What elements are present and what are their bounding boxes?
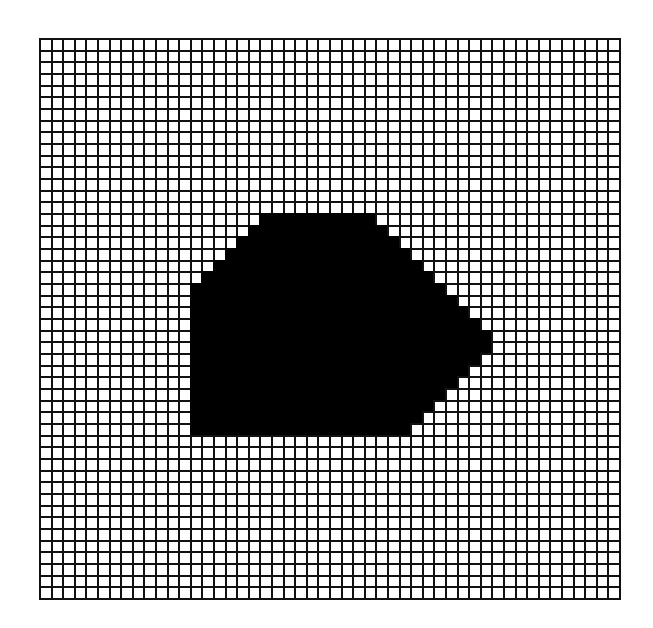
- grid-cell: [433, 96, 445, 108]
- grid-cell: [364, 435, 376, 447]
- filled-cell: [375, 306, 387, 318]
- grid-cell: [97, 435, 109, 447]
- grid-cell: [445, 446, 457, 458]
- filled-cell: [259, 225, 271, 237]
- grid-cell: [584, 38, 596, 50]
- grid-cell: [341, 586, 353, 598]
- filled-cell: [283, 330, 295, 342]
- filled-cell: [190, 318, 202, 330]
- grid-cell: [561, 143, 573, 155]
- filled-cell: [271, 295, 283, 307]
- grid-cell: [201, 236, 213, 248]
- grid-cell: [155, 225, 167, 237]
- grid-cell: [480, 505, 492, 517]
- grid-cell: [445, 470, 457, 482]
- grid-cell: [573, 318, 585, 330]
- grid-cell: [85, 376, 97, 388]
- grid-cell: [74, 85, 86, 97]
- grid-cell: [538, 563, 550, 575]
- grid-cell: [399, 73, 411, 85]
- grid-cell: [85, 120, 97, 132]
- filled-cell: [236, 283, 248, 295]
- filled-cell: [294, 353, 306, 365]
- grid-cell: [74, 50, 86, 62]
- grid-cell: [526, 96, 538, 108]
- grid-cell: [143, 236, 155, 248]
- grid-cell: [445, 190, 457, 202]
- grid-cell: [143, 318, 155, 330]
- grid-cell: [422, 446, 434, 458]
- grid-cell: [85, 318, 97, 330]
- grid-cell: [178, 470, 190, 482]
- grid-cell: [410, 493, 422, 505]
- grid-cell: [549, 540, 561, 552]
- grid-cell: [271, 435, 283, 447]
- grid-cell: [51, 260, 63, 272]
- grid-cell: [491, 271, 503, 283]
- grid-cell: [422, 423, 434, 435]
- grid-cell: [399, 493, 411, 505]
- grid-cell: [167, 166, 179, 178]
- grid-cell: [468, 178, 480, 190]
- grid-cell: [375, 575, 387, 587]
- grid-cell: [74, 493, 86, 505]
- grid-cell: [236, 551, 248, 563]
- grid-cell: [596, 260, 608, 272]
- filled-cell: [352, 248, 364, 260]
- grid-cell: [596, 213, 608, 225]
- grid-cell: [294, 166, 306, 178]
- grid-cell: [155, 341, 167, 353]
- grid-cell: [457, 96, 469, 108]
- grid-cell: [201, 260, 213, 272]
- grid-cell: [433, 120, 445, 132]
- grid-cell: [329, 481, 341, 493]
- grid-cell: [97, 353, 109, 365]
- grid-cell: [143, 61, 155, 73]
- grid-cell: [85, 295, 97, 307]
- grid-cell: [317, 493, 329, 505]
- grid-cell: [236, 481, 248, 493]
- grid-cell: [480, 458, 492, 470]
- filled-cell: [201, 411, 213, 423]
- grid-cell: [596, 400, 608, 412]
- filled-cell: [201, 318, 213, 330]
- grid-cell: [399, 505, 411, 517]
- filled-cell: [306, 295, 318, 307]
- grid-cell: [225, 201, 237, 213]
- grid-cell: [143, 213, 155, 225]
- grid-cell: [584, 400, 596, 412]
- grid-cell: [480, 96, 492, 108]
- grid-cell: [561, 73, 573, 85]
- grid-cell: [259, 120, 271, 132]
- grid-cell: [491, 388, 503, 400]
- grid-cell: [132, 470, 144, 482]
- filled-cell: [317, 271, 329, 283]
- grid-cell: [549, 166, 561, 178]
- filled-cell: [317, 400, 329, 412]
- grid-cell: [329, 586, 341, 598]
- grid-cell: [561, 61, 573, 73]
- grid-cell: [433, 178, 445, 190]
- filled-cell: [225, 283, 237, 295]
- grid-cell: [445, 50, 457, 62]
- grid-cell: [410, 563, 422, 575]
- grid-cell: [468, 190, 480, 202]
- grid-cell: [607, 108, 619, 120]
- filled-cell: [422, 283, 434, 295]
- grid-cell: [271, 178, 283, 190]
- grid-cell: [596, 283, 608, 295]
- grid-cell: [573, 446, 585, 458]
- grid-cell: [167, 283, 179, 295]
- grid-cell: [584, 236, 596, 248]
- grid-cell: [410, 143, 422, 155]
- grid-cell: [306, 528, 318, 540]
- filled-cell: [375, 353, 387, 365]
- grid-cell: [352, 493, 364, 505]
- grid-cell: [468, 236, 480, 248]
- grid-cell: [526, 435, 538, 447]
- grid-cell: [341, 120, 353, 132]
- grid-cell: [248, 575, 260, 587]
- grid-cell: [515, 516, 527, 528]
- grid-cell: [120, 248, 132, 260]
- grid-cell: [526, 143, 538, 155]
